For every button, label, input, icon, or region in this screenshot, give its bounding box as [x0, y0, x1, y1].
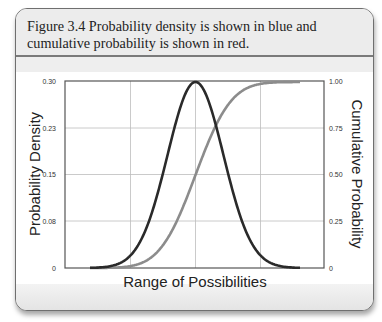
y-axis-title-right: Cumulative Probability [349, 99, 366, 249]
cumulative-probability-line [90, 82, 300, 268]
chart: 0.30 0.23 0.15 0.08 0 1.00 0.75 0.50 0.2… [0, 0, 382, 322]
right-tick-2: 0.50 [329, 171, 343, 178]
left-tick-3: 0.08 [42, 218, 56, 225]
left-axis-ticks: 0.30 0.23 0.15 0.08 0 [42, 78, 56, 272]
left-tick-4: 0 [52, 265, 56, 272]
left-tick-2: 0.15 [42, 171, 56, 178]
y-axis-title-left: Probability Density [26, 111, 43, 236]
x-axis-title: Range of Possibilities [123, 273, 266, 290]
right-axis-ticks: 1.00 0.75 0.50 0.25 0 [329, 78, 343, 272]
right-tick-1: 0.75 [329, 125, 343, 132]
left-tick-0: 0.30 [42, 78, 56, 85]
right-tick-3: 0.25 [329, 218, 343, 225]
left-tick-1: 0.23 [42, 125, 56, 132]
right-tick-0: 1.00 [329, 78, 343, 85]
right-tick-4: 0 [329, 265, 333, 272]
